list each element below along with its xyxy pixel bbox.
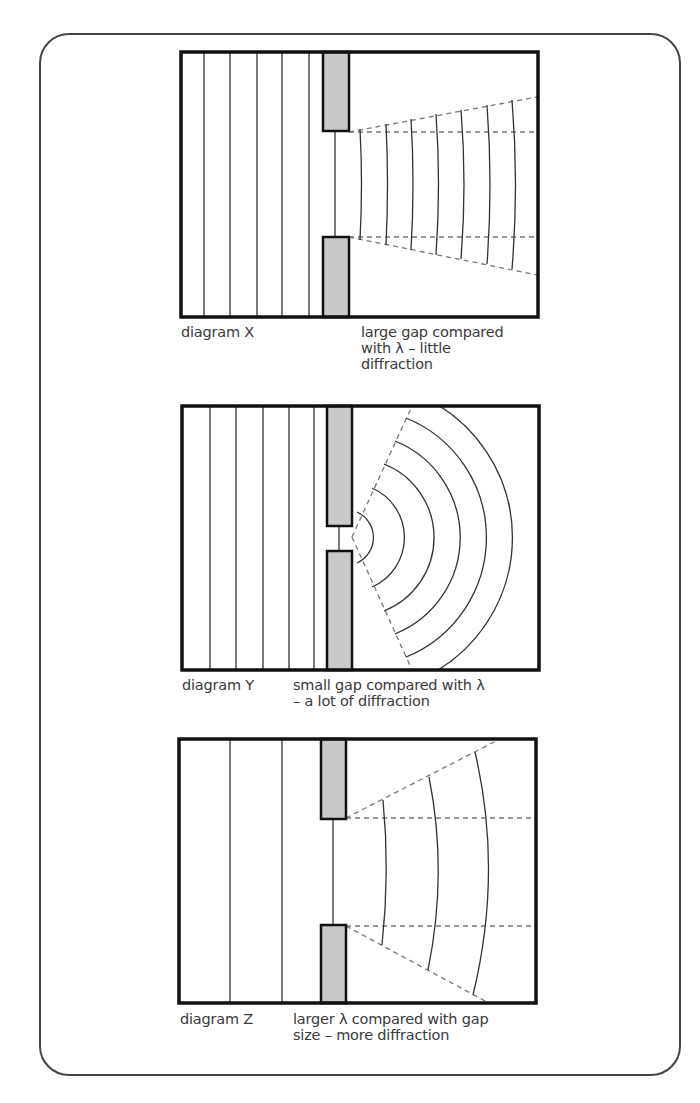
diagram-z: [179, 739, 536, 1003]
barrier-bottom-x: [323, 237, 349, 317]
diagram-z-border: [179, 739, 536, 1003]
diagram-z-description: larger λ compared with gap size – more d…: [293, 1011, 488, 1043]
dashed-guides-z: [346, 740, 534, 1002]
barrier-top-z: [321, 739, 346, 819]
barrier-bottom-z: [321, 925, 346, 1003]
incident-wavefronts-y: [210, 406, 339, 670]
diagram-y-description: small gap compared with λ – a lot of dif…: [293, 677, 485, 709]
diffraction-diagrams: [0, 0, 700, 1103]
barrier-top-y: [327, 406, 352, 526]
barrier-top-x: [323, 52, 349, 131]
diagram-y: [182, 394, 539, 681]
diagram-x-border: [181, 52, 538, 317]
diffracted-wavefronts-x: [360, 100, 516, 269]
diagram-x-description: large gap compared with λ – little diffr…: [361, 324, 503, 372]
dashed-guides-x: [349, 97, 537, 275]
diagram-x-label: diagram X: [181, 324, 254, 340]
barrier-bottom-y: [327, 551, 352, 670]
diagram-z-label: diagram Z: [180, 1011, 253, 1027]
diagram-y-label: diagram Y: [182, 677, 254, 693]
diffracted-wavefronts-z: [382, 752, 489, 995]
diagram-x: [181, 52, 538, 317]
diffracted-wavefronts-y: [357, 394, 512, 681]
incident-wavefronts-z: [230, 739, 333, 1003]
incident-wavefronts-x: [204, 52, 335, 317]
